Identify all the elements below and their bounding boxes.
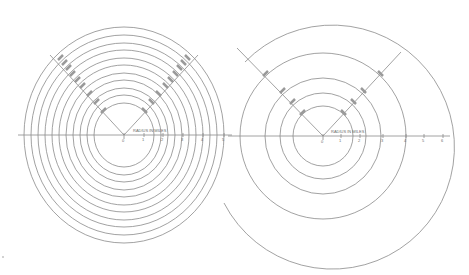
left-tick-3: 3 xyxy=(181,137,184,142)
left-diagonal-labels xyxy=(58,55,190,113)
right-diagonal-ne xyxy=(323,52,401,136)
diagram-canvas: RADIUS IN MILES 0 1 2 3 4 5 xyxy=(0,0,469,275)
right-tick-0: 0 xyxy=(321,139,324,144)
right-tick-5: 5 xyxy=(422,138,425,143)
right-tick-2: 2 xyxy=(358,138,361,143)
left-axis-title: RADIUS IN MILES xyxy=(133,128,167,133)
left-tick-5: 5 xyxy=(222,137,225,142)
right-spiral-diagram xyxy=(224,25,454,269)
right-axis-title: RADIUS IN MILES xyxy=(331,129,365,134)
left-tick-0: 0 xyxy=(122,138,125,143)
left-tick-2: 2 xyxy=(161,137,164,142)
left-tick-4: 4 xyxy=(201,137,204,142)
right-tick-1: 1 xyxy=(339,138,342,143)
right-tick-6: 6 xyxy=(441,138,444,143)
stray-mark xyxy=(2,256,4,258)
left-concentric-diagram xyxy=(18,27,232,243)
right-outer-spiral xyxy=(224,25,454,269)
right-tick-3: 3 xyxy=(381,138,384,143)
left-tick-1: 1 xyxy=(142,137,145,142)
right-tick-4: 4 xyxy=(404,138,407,143)
left-axis-ticks xyxy=(124,133,224,139)
right-axis-labels: RADIUS IN MILES 0 1 2 3 4 5 6 xyxy=(321,129,444,144)
